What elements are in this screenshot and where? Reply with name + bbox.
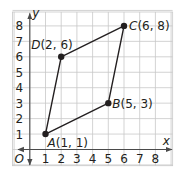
x-tick-label: 1 <box>42 152 50 166</box>
y-tick-label: 4 <box>15 81 23 95</box>
x-tick-label: 7 <box>136 152 144 166</box>
coordinate-plane: 1234567812345678Oxy A(1, 1)B(5, 3)C(6, 8… <box>0 0 182 173</box>
y-tick-label: 6 <box>15 50 23 64</box>
x-axis-label: x <box>162 134 171 148</box>
x-tick-label: 2 <box>57 152 65 166</box>
y-tick-label: 5 <box>15 66 23 80</box>
x-tick-label: 5 <box>104 152 112 166</box>
point-label-b: B(5, 3) <box>112 97 153 111</box>
y-axis-label: y <box>31 6 40 20</box>
axes <box>18 14 172 165</box>
y-tick-label: 3 <box>15 97 23 111</box>
point-label-d: D(2, 6) <box>31 38 73 52</box>
point-b <box>105 100 111 106</box>
x-tick-label: 8 <box>152 152 160 166</box>
y-tick-label: 1 <box>15 128 23 142</box>
y-tick-label: 2 <box>15 112 23 126</box>
point-label-c: C(6, 8) <box>129 19 170 33</box>
y-tick-label: 7 <box>15 35 23 49</box>
y-tick-label: 8 <box>15 19 23 33</box>
origin-label: O <box>15 152 24 166</box>
point-c <box>121 23 127 29</box>
x-tick-label: 4 <box>89 152 97 166</box>
point-d <box>58 54 64 60</box>
x-tick-label: 6 <box>120 152 128 166</box>
x-tick-label: 3 <box>73 152 81 166</box>
point-label-a: A(1, 1) <box>47 136 88 150</box>
grid-lines <box>13 10 173 165</box>
